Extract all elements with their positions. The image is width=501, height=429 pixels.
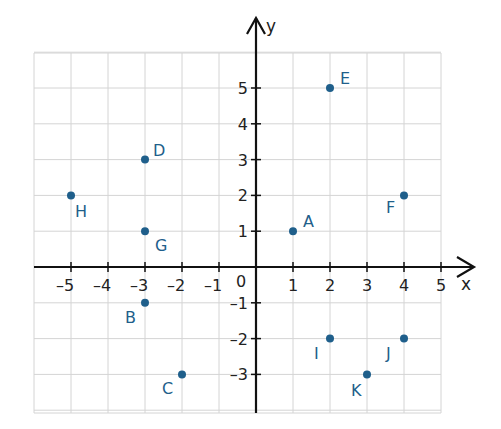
point-dot <box>400 191 408 199</box>
x-tick-label: –3 <box>130 276 148 295</box>
point-dot <box>289 227 297 235</box>
y-tick-label: 1 <box>238 222 248 241</box>
point-dot <box>178 370 186 378</box>
y-tick-label: –2 <box>230 330 248 349</box>
y-tick-label: –3 <box>230 365 248 384</box>
point-dot <box>141 156 149 164</box>
x-tick-label: 3 <box>362 276 372 295</box>
x-tick-label: –5 <box>56 276 74 295</box>
point-dot <box>141 227 149 235</box>
axes: xy <box>34 16 474 413</box>
x-tick-label: 2 <box>325 276 335 295</box>
x-axis-label: x <box>461 274 471 294</box>
x-tick-label: –1 <box>204 276 222 295</box>
coordinate-plane: xy –5–4–3–2–112345–3–2–1123450 ABCDEFGHI… <box>0 0 501 429</box>
point-label: C <box>162 379 173 398</box>
y-axis-label: y <box>266 16 276 36</box>
point-dot <box>141 299 149 307</box>
x-tick-label: 4 <box>399 276 409 295</box>
point-dot <box>67 191 75 199</box>
y-tick-label: 3 <box>238 151 248 170</box>
point-label: K <box>351 381 362 400</box>
y-tick-label: 4 <box>238 115 248 134</box>
y-tick-label: –1 <box>230 294 248 313</box>
point-dot <box>400 335 408 343</box>
point-label: G <box>155 236 167 255</box>
point-dot <box>363 370 371 378</box>
point-label: I <box>314 344 319 363</box>
point-label: F <box>386 198 395 217</box>
x-tick-label: 1 <box>288 276 298 295</box>
y-tick-label: 5 <box>238 79 248 98</box>
point-label: A <box>303 212 314 231</box>
point-label: E <box>340 69 350 88</box>
x-tick-label: –2 <box>167 276 185 295</box>
point-label: B <box>125 308 136 327</box>
origin-label: 0 <box>236 272 246 291</box>
point-label: J <box>385 344 391 363</box>
point-dot <box>326 335 334 343</box>
point-label: H <box>75 202 87 221</box>
point-label: D <box>153 141 165 160</box>
x-tick-label: –4 <box>93 276 111 295</box>
point-dot <box>326 84 334 92</box>
y-tick-label: 2 <box>238 186 248 205</box>
x-tick-label: 5 <box>436 276 446 295</box>
